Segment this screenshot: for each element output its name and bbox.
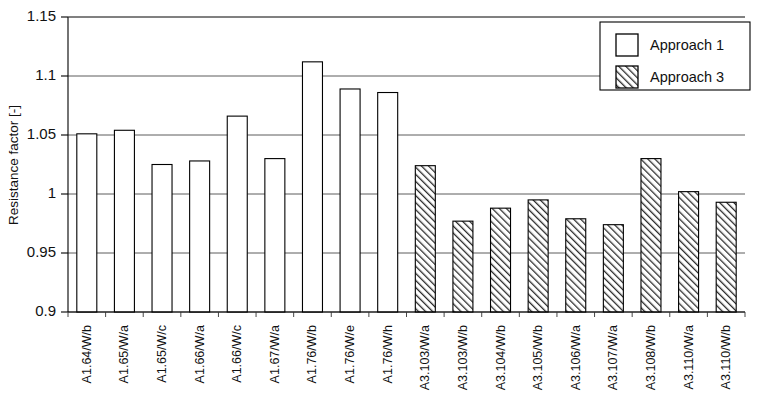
y-axis-ticks: 0.90.9511.051.11.15 [27, 7, 68, 319]
bar-A3.105/W/b [528, 200, 548, 312]
x-tick-label: A1.76/W/b [305, 325, 319, 383]
x-tick-label: A1.66/W/c [230, 325, 244, 383]
y-tick-label: 1.15 [27, 7, 56, 24]
bar-A1.76/W/h [378, 93, 398, 312]
x-tick-label: A1.67/W/a [268, 325, 282, 383]
x-tick-label: A3.110/W/a [682, 325, 696, 389]
y-tick-label: 0.9 [35, 302, 56, 319]
bar-A1.66/W/c [227, 116, 247, 312]
bar-A3.107/W/a [603, 225, 623, 312]
y-tick-label: 0.95 [27, 243, 56, 260]
bar-A3.110/W/b [716, 202, 736, 312]
bar-A1.66/W/a [190, 161, 210, 312]
bar-A3.108/W/b [641, 159, 661, 312]
bar-A3.103/W/b [453, 221, 473, 312]
x-tick-label: A1.64/W/b [80, 325, 94, 383]
x-tick-label: A3.106/W/a [569, 325, 583, 390]
bar-A1.76/W/b [302, 62, 322, 312]
x-tick-label: A3.110/W/b [719, 325, 733, 389]
x-tick-label: A1.65/W/c [155, 325, 169, 383]
chart-legend: Approach 1Approach 3 [600, 22, 750, 90]
x-tick-label: A1.65/W/a [117, 325, 131, 383]
x-tick-label: A3.103/W/a [418, 325, 432, 390]
x-tick-label: A3.108/W/b [644, 325, 658, 390]
x-tick-label: A1.76/W/e [343, 325, 357, 383]
legend-swatch-approach-1 [616, 34, 638, 56]
y-tick-label: 1.1 [35, 66, 56, 83]
bar-A3.106/W/a [566, 219, 586, 312]
y-axis-title: Resistance factor [-] [6, 105, 21, 225]
x-tick-label: A3.105/W/b [531, 325, 545, 390]
bar-A1.64/W/b [77, 134, 97, 312]
bars [77, 62, 736, 312]
chart-canvas: 0.90.9511.051.11.15 A1.64/W/bA1.65/W/aA1… [0, 0, 760, 414]
resistance-factor-bar-chart: 0.90.9511.051.11.15 A1.64/W/bA1.65/W/aA1… [0, 0, 760, 414]
x-tick-label: A1.66/W/a [193, 325, 207, 383]
bar-A3.103/W/a [415, 166, 435, 312]
bar-A3.110/W/a [679, 192, 699, 312]
legend-label-approach-1: Approach 1 [650, 37, 724, 53]
x-axis-ticks: A1.64/W/bA1.65/W/aA1.65/W/cA1.66/W/aA1.6… [68, 312, 745, 390]
x-tick-label: A3.107/W/a [606, 325, 620, 390]
legend-swatch-approach-3 [616, 66, 638, 88]
y-tick-label: 1.05 [27, 125, 56, 142]
bar-A1.65/W/c [152, 165, 172, 313]
bar-A1.65/W/a [114, 130, 134, 312]
bar-A1.67/W/a [265, 159, 285, 312]
x-tick-label: A3.104/W/b [494, 325, 508, 390]
bar-A1.76/W/e [340, 89, 360, 312]
x-tick-label: A1.76/W/h [381, 325, 395, 383]
x-tick-label: A3.103/W/b [456, 325, 470, 390]
bar-A3.104/W/b [491, 208, 511, 312]
legend-label-approach-3: Approach 3 [650, 69, 724, 85]
y-tick-label: 1 [48, 184, 56, 201]
